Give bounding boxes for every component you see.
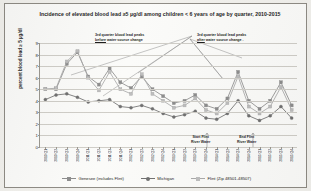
gridline [40,89,297,90]
x-tick-label: 2010 Q2 [54,149,58,162]
legend-item[interactable]: Genesee (includes Flint) [62,176,124,181]
series-marker [204,109,207,112]
series-marker [76,50,79,53]
x-tick-label: 2011 Q3 [108,149,112,161]
annotation-start-flint-river-water: Start Flint River Water [191,135,210,145]
gridline [40,55,297,56]
gridline [40,43,297,44]
series-marker [108,70,111,73]
series-marker [237,70,240,73]
series-marker [194,94,197,97]
x-tick-mark [270,147,271,149]
y-axis-ticks: 0123456789 [27,43,38,148]
legend-marker-icon [141,176,155,181]
x-tick-mark [77,147,78,149]
x-tick-label: 2015 Q1 [258,149,262,162]
series-marker [290,109,293,112]
x-tick-label: 2011 Q1 [86,149,90,161]
x-tick-mark [88,147,89,149]
x-tick-mark [163,147,164,149]
gridline [40,124,297,125]
x-tick-label: 2013 Q1 [172,149,176,162]
series-marker [172,106,175,109]
x-tick-mark [206,147,207,149]
y-tick-label: 7 [28,64,38,69]
annotation-pre-change-emphasis: before [95,38,106,42]
x-tick-label: 2013 Q2 [183,149,187,162]
x-tick-mark [238,147,239,149]
start-flint-line2: River Water [191,140,210,145]
series-marker [204,117,207,120]
legend-marker-icon [62,176,76,181]
x-tick-label: 2014 Q2 [226,149,230,162]
series-marker [269,105,272,108]
series-marker [247,105,250,108]
x-tick-mark [131,147,132,149]
x-tick-mark [142,147,143,149]
series-marker [162,95,165,98]
series-marker [194,97,197,100]
series-marker [130,92,133,95]
legend-label: Flint (Zip 48501-48507) [208,176,252,181]
x-tick-label: 2014 Q3 [236,149,240,162]
x-tick-mark [99,147,100,149]
x-tick-mark [152,147,153,149]
series-canvas [40,43,297,147]
legend-item[interactable]: Michigan [141,176,174,181]
x-tick-label: 2014 Q1 [215,149,219,162]
series-marker [55,94,58,97]
series-marker [258,107,261,110]
annotation-post-change: 3rd quarter blood lead peaks after water… [197,33,246,44]
y-tick-label: 4 [28,98,38,103]
annotation-pre-change-rest: water source change [106,38,143,42]
series-line [45,94,291,121]
series-marker [215,118,218,121]
y-tick-label: 2 [28,121,38,126]
screenshot-root: Incidence of elevated blood lead ≥5 µg/d… [0,0,311,191]
annotation-pre-change-line2: before water source change [95,38,144,43]
x-tick-mark [217,147,218,149]
plot-area [40,43,297,147]
gridline [40,112,297,113]
y-axis-label: percent blood lead ≥ 5 µg/dl [18,11,23,107]
gridline [40,135,297,136]
legend-label: Michigan [157,176,174,181]
series-marker [183,113,186,116]
x-tick-label: 2014 Q4 [247,149,251,162]
y-tick-label: 3 [28,110,38,115]
annotation-post-change-emphasis: after [197,38,205,42]
series-marker [269,114,272,117]
series-marker [247,114,250,117]
series-marker [151,92,154,95]
x-tick-label: 2011 Q2 [97,149,101,161]
x-tick-mark [56,147,57,149]
y-tick-label: 0 [28,145,38,150]
legend-item[interactable]: Flint (Zip 48501-48507) [191,176,251,181]
series-marker [258,119,261,122]
x-tick-mark [281,147,282,149]
x-tick-mark [195,147,196,149]
x-tick-label: 2015 Q3 [279,149,283,162]
x-tick-mark [260,147,261,149]
y-tick-label: 6 [28,75,38,80]
x-tick-label: 2013 Q3 [193,149,197,162]
x-axis-labels: 2010 Q12010 Q22010 Q32010 Q42011 Q12011 … [40,149,297,175]
x-tick-mark [110,147,111,149]
x-tick-label: 2010 Q1 [44,149,48,162]
series-marker [108,67,111,70]
end-flint-line2: River Water [237,140,256,145]
annotation-post-change-rest: water source change . [205,38,244,42]
x-tick-mark [292,147,293,149]
chart-title: Incidence of elevated blood lead ≥5 µg/d… [31,10,289,18]
series-marker [140,104,143,107]
y-tick-label: 8 [28,52,38,57]
series-marker [183,104,186,107]
x-tick-label: 2015 Q4 [290,149,294,162]
series-marker [140,73,143,76]
legend-marker-icon [191,176,205,181]
y-tick-label: 9 [28,41,38,46]
x-tick-mark [45,147,46,149]
x-tick-label: 2015 Q2 [268,149,272,162]
x-tick-mark [185,147,186,149]
series-marker [279,81,282,84]
